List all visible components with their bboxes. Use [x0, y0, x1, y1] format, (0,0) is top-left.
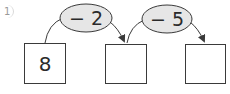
operation-label-1: − 2 [60, 9, 112, 28]
operation-label-2: − 5 [142, 10, 192, 29]
arrow-diagram [0, 0, 230, 94]
box-value-1: 8 [24, 54, 66, 74]
box-value-3[interactable] [185, 54, 226, 74]
box-value-2[interactable] [105, 54, 147, 74]
arrow-icon [190, 22, 204, 41]
arrow-icon [110, 22, 124, 41]
